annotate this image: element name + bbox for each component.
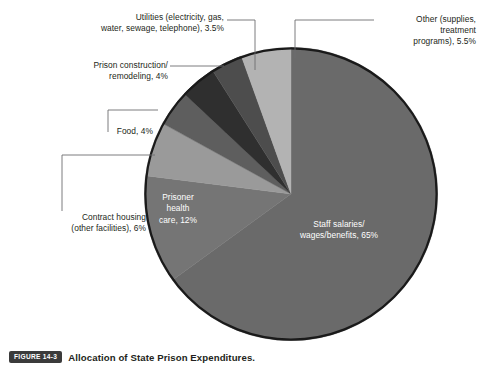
figure-caption-bar: FIGURE 14-3 Allocation of State Prison E…	[9, 351, 255, 363]
label-prisoner-health-care: Prisoner health care, 12%	[139, 192, 217, 226]
figure-number-badge: FIGURE 14-3	[9, 351, 62, 363]
label-staff-salaries: Staff salaries/ wages/benefits, 65%	[273, 219, 405, 242]
label-other: Other (supplies, treatment programs), 5.…	[378, 14, 476, 48]
label-utilities: Utilities (electricity, gas, water, sewa…	[40, 12, 224, 34]
figure-container: Utilities (electricity, gas, water, sewa…	[0, 0, 481, 369]
label-prison-construction: Prison construction/ remodeling, 4%	[44, 60, 168, 82]
label-food: Food, 4%	[48, 126, 153, 137]
figure-caption-text: Allocation of State Prison Expenditures.	[68, 352, 255, 363]
label-contract-housing: Contract housing (other facilities), 6%	[8, 212, 146, 234]
